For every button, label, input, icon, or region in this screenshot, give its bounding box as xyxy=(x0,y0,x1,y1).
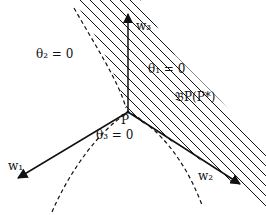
label-theta3: θ₃ = 0 xyxy=(96,128,133,142)
label-theta1: θ₁ = 0 xyxy=(148,62,185,76)
label-w2: w₂ xyxy=(198,169,213,183)
label-w3: w₃ xyxy=(136,19,151,33)
vector-w1 xyxy=(18,112,128,178)
diagram-canvas: w₃ w₁ w₂ θ₂ = 0 θ₁ = 0 θ₃ = 0 𝔅P(P*) P xyxy=(0,0,266,215)
label-point-p: P xyxy=(121,113,129,127)
label-theta2: θ₂ = 0 xyxy=(36,47,73,61)
label-w1: w₁ xyxy=(8,159,23,173)
label-hatched-region: 𝔅P(P*) xyxy=(175,90,216,104)
hatched-region xyxy=(0,0,266,215)
